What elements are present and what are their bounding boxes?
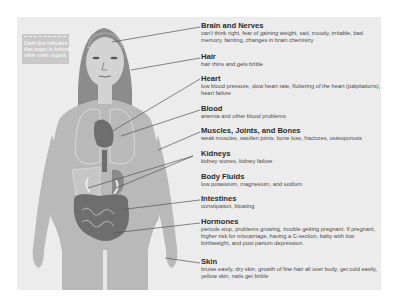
item-title: Blood <box>201 104 381 113</box>
item-title: Skin <box>201 257 381 266</box>
item-desc: periods stop, problems growing, trouble … <box>201 226 381 247</box>
label-heart: Heart low blood pressure, slow heart rat… <box>201 74 381 97</box>
label-kidneys: Kidneys kidney stones, kidney failure <box>201 149 381 165</box>
label-brain-and-nerves: Brain and Nerves can't think right, fear… <box>201 21 381 44</box>
item-title: Kidneys <box>201 149 381 158</box>
item-title: Hair <box>201 52 381 61</box>
item-desc: weak muscles, swollen joints, bone loss,… <box>201 135 381 142</box>
item-title: Hormones <box>201 217 381 226</box>
label-body-fluids: Body Fluids low potassium, magnesium, an… <box>201 172 381 188</box>
item-desc: low potassium, magnesium, and sodium <box>201 181 381 188</box>
item-desc: can't think right, fear of gaining weigh… <box>201 30 381 44</box>
item-title: Intestines <box>201 194 381 203</box>
label-blood: Blood anemia and other blood problems <box>201 104 381 120</box>
item-desc: constipation, bloating <box>201 203 381 210</box>
label-muscles-joints-bones: Muscles, Joints, and Bones weak muscles,… <box>201 126 381 142</box>
label-skin: Skin bruise easily, dry skin, growth of … <box>201 257 381 280</box>
item-desc: low blood pressure, slow heart rate, flu… <box>201 83 381 97</box>
item-title: Heart <box>201 74 381 83</box>
neck <box>98 82 112 104</box>
face <box>86 37 124 87</box>
item-desc: kidney stones, kidney failure <box>201 158 381 165</box>
item-desc: hair thins and gets brittle <box>201 61 381 68</box>
label-hair: Hair hair thins and gets brittle <box>201 52 381 68</box>
label-intestines: Intestines constipation, bloating <box>201 194 381 210</box>
item-desc: anemia and other blood problems <box>201 113 381 120</box>
item-title: Muscles, Joints, and Bones <box>201 126 381 135</box>
legend-text: Dash line indicates that organ is behind… <box>24 40 70 59</box>
item-desc: bruise easily, dry skin, growth of fine … <box>201 266 381 280</box>
item-title: Brain and Nerves <box>201 21 381 30</box>
item-title: Body Fluids <box>201 172 381 181</box>
label-hormones: Hormones periods stop, problems growing,… <box>201 217 381 247</box>
dash-line-sample <box>24 36 66 37</box>
